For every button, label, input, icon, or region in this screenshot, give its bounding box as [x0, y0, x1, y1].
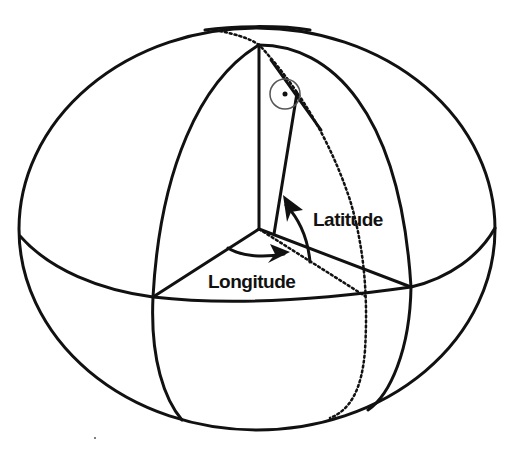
latitude-label: Latitude [313, 209, 383, 230]
point-dot-icon [283, 92, 288, 97]
diagram-canvas: Latitude Longitude [0, 0, 515, 449]
speck-dot [94, 437, 96, 439]
ellipsoid-diagram: Latitude Longitude [0, 0, 515, 449]
latitude-arrowhead-icon [283, 195, 303, 222]
left-meridian [153, 45, 259, 420]
tangent-segment [271, 60, 321, 130]
longitude-label: Longitude [208, 271, 295, 292]
